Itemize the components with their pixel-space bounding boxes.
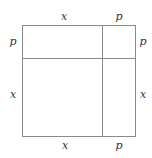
label-right-p: p — [139, 36, 146, 47]
outer-right-edge — [135, 25, 136, 137]
outer-top-edge — [22, 25, 136, 26]
label-left-x: x — [10, 89, 16, 100]
label-top-p: p — [115, 11, 122, 22]
label-top-x: x — [61, 11, 67, 22]
label-bottom-p: p — [115, 140, 122, 151]
label-bottom-x: x — [62, 140, 68, 151]
horizontal-divider — [22, 58, 136, 59]
outer-bottom-edge — [22, 136, 136, 137]
label-right-x: x — [140, 89, 146, 100]
outer-left-edge — [22, 25, 23, 137]
label-left-p: p — [9, 36, 16, 47]
vertical-divider — [102, 25, 103, 137]
